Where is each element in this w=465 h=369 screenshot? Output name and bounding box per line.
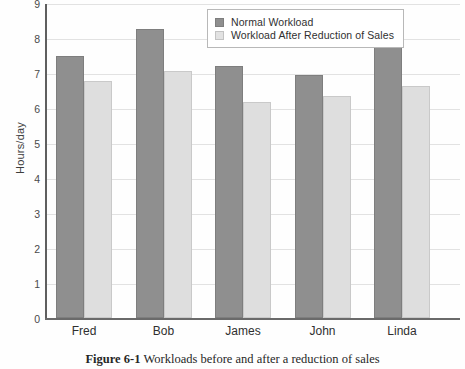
legend-item-normal-workload: Normal Workload bbox=[215, 16, 394, 28]
y-axis-tick-labels: 0123456789 bbox=[10, 4, 40, 319]
bar-james-normal bbox=[215, 66, 243, 318]
figure-caption: Figure 6-1 Workloads before and after a … bbox=[0, 352, 465, 369]
bar-bob-reduced bbox=[164, 71, 192, 318]
caption-text: Workloads before and after a reduction o… bbox=[144, 352, 380, 366]
chart-legend: Normal Workload Workload After Reduction… bbox=[207, 9, 404, 48]
legend-item-reduced-workload: Workload After Reduction of Sales bbox=[215, 29, 394, 41]
legend-label-reduced-workload: Workload After Reduction of Sales bbox=[231, 29, 394, 41]
bar-john-normal bbox=[295, 75, 323, 318]
y-tick-label: 5 bbox=[14, 138, 40, 150]
bar-bob-normal bbox=[136, 29, 164, 318]
y-tick-label: 9 bbox=[14, 0, 40, 10]
x-tick-label-john: John bbox=[309, 324, 335, 338]
x-tick-label-bob: Bob bbox=[153, 324, 174, 338]
x-tick-label-james: James bbox=[225, 324, 260, 338]
bar-fred-reduced bbox=[84, 81, 112, 318]
legend-swatch-reduced-workload bbox=[215, 31, 224, 40]
y-tick-label: 2 bbox=[14, 243, 40, 255]
legend-label-normal-workload: Normal Workload bbox=[231, 16, 313, 28]
legend-swatch-normal-workload bbox=[215, 18, 224, 27]
bar-john-reduced bbox=[323, 96, 351, 318]
gridline bbox=[47, 4, 460, 5]
bar-fred-normal bbox=[56, 56, 84, 319]
y-axis-line bbox=[45, 4, 47, 319]
x-tick-label-linda: Linda bbox=[387, 324, 416, 338]
y-tick-label: 1 bbox=[14, 278, 40, 290]
x-tick-label-fred: Fred bbox=[72, 324, 97, 338]
bar-linda-reduced bbox=[402, 86, 430, 318]
bar-james-reduced bbox=[243, 102, 271, 318]
y-tick-label: 4 bbox=[14, 173, 40, 185]
y-tick-label: 8 bbox=[14, 33, 40, 45]
plot-area bbox=[45, 4, 460, 319]
x-axis-line bbox=[45, 318, 460, 320]
y-tick-label: 6 bbox=[14, 103, 40, 115]
bar-linda-normal bbox=[374, 36, 402, 318]
y-tick-label: 3 bbox=[14, 208, 40, 220]
caption-number: Figure 6-1 bbox=[85, 352, 140, 366]
y-tick-label: 0 bbox=[14, 313, 40, 325]
y-tick-label: 7 bbox=[14, 68, 40, 80]
figure-container: Hours/day 0123456789 FredBobJamesJohnLin… bbox=[0, 0, 465, 369]
